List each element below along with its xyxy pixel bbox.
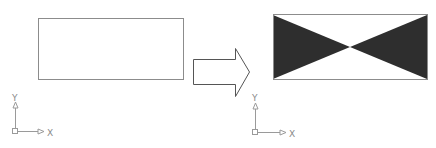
ucs-right-y-label: Y [251,93,258,103]
right-arrow-icon [194,49,250,97]
bowtie-left-triangle [273,15,350,79]
ucs-right-x-label: X [289,129,295,139]
bowtie-right-triangle [350,15,427,79]
ucs-left-y-label: Y [11,93,18,103]
ucs-icon-right [253,103,287,135]
diagram-canvas: Y X Y X [0,0,436,148]
ucs-icon-left [13,102,45,134]
source-rectangle [39,19,184,80]
ucs-left-x-label: X [47,128,53,138]
